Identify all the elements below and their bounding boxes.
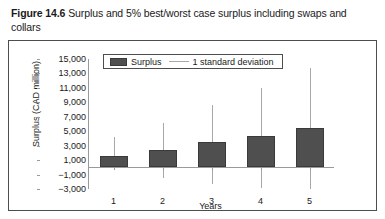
x-axis-tick-mark xyxy=(163,167,164,170)
x-axis-title: Years xyxy=(88,201,333,211)
y-axis-tick-label: −1,000 xyxy=(40,170,86,180)
bar[interactable] xyxy=(100,156,128,168)
chart-frame: Surplus (CAD million) Surplus 1 standard… xyxy=(8,40,377,211)
bar-group: 2 xyxy=(138,59,187,189)
x-axis-tick-mark xyxy=(261,167,262,170)
y-axis-tick-label: 11,000 xyxy=(40,83,86,93)
y-axis-tick-label: 9,000 xyxy=(40,97,86,107)
figure-container: Figure 14.6 Surplus and 5% best/worst ca… xyxy=(0,0,385,219)
y-axis-tick-mark xyxy=(37,102,40,103)
y-axis-tick-label: −3,000 xyxy=(40,184,86,194)
y-axis-tick-mark xyxy=(37,160,40,161)
y-axis-tick-label: 15,000 xyxy=(40,54,86,64)
y-axis-tick-label: 5,000 xyxy=(40,126,86,136)
y-axis-tick-mark xyxy=(37,88,40,89)
x-axis-tick-mark xyxy=(114,167,115,170)
y-axis-tick-mark xyxy=(37,175,40,176)
y-axis-tick-label: 3,000 xyxy=(40,141,86,151)
y-axis-tick-label: 1,000 xyxy=(40,155,86,165)
y-axis-tick-mark xyxy=(37,73,40,74)
figure-caption: Figure 14.6 Surplus and 5% best/worst ca… xyxy=(11,7,374,34)
x-axis-tick-mark xyxy=(310,167,311,170)
plot-area: 15,00013,00011,0009,0007,0005,0003,0001,… xyxy=(88,59,333,189)
y-axis-tick-mark xyxy=(37,146,40,147)
bar-group: 1 xyxy=(89,59,138,189)
bar-group: 3 xyxy=(187,59,236,189)
bar[interactable] xyxy=(247,136,275,168)
y-axis-tick-label: 13,000 xyxy=(40,68,86,78)
x-axis-tick-mark xyxy=(212,167,213,170)
bar-group: 5 xyxy=(285,59,334,189)
y-axis-tick-mark xyxy=(37,131,40,132)
y-axis-tick-mark xyxy=(37,59,40,60)
bar[interactable] xyxy=(198,142,226,167)
bar[interactable] xyxy=(296,128,324,168)
y-axis-tick-label: 7,000 xyxy=(40,112,86,122)
bar-group: 4 xyxy=(236,59,285,189)
y-axis-tick-mark xyxy=(37,117,40,118)
bar[interactable] xyxy=(149,150,177,167)
y-axis-tick-mark xyxy=(37,189,40,190)
figure-number: Figure 14.6 xyxy=(11,7,65,19)
